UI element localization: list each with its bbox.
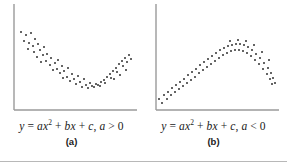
scatter-point [226,52,228,54]
scatter-point [71,73,73,75]
scatter-points-a [0,0,143,119]
eq-a-comma: , [93,120,96,132]
scatter-point [113,78,115,80]
scatter-point [243,44,245,46]
scatter-point [54,62,56,64]
panel-label-b: (b) [142,135,285,148]
scatter-point [234,49,236,51]
scatter-point [269,78,271,80]
eq-a-relation: > [108,120,115,132]
eq-a-equals: = [28,120,35,132]
scatter-point [270,72,272,74]
scatter-point [40,61,42,63]
scatter-point [163,94,165,96]
scatter-point [45,60,47,62]
scatter-point [202,69,204,71]
scatter-point [75,83,77,85]
scatter-point [229,40,231,42]
scatter-point [203,61,205,63]
panel-label-a: (a) [0,135,143,148]
scatter-point [37,43,39,45]
scatter-point [170,94,172,96]
scatter-point [161,102,163,104]
scatter-point [118,63,120,65]
scatter-point [268,59,270,61]
scatter-point [272,77,274,79]
scatter-point [116,71,118,73]
scatter-point [245,40,247,42]
scatter-point [158,98,160,100]
scatter-point [112,70,114,72]
scatter-point [251,49,253,51]
scatter-point [246,52,248,54]
scatter-point [259,57,261,59]
scatter-point [59,72,61,74]
scatter-point [103,79,105,81]
scatter-point [194,76,196,78]
scatter-point [187,74,189,76]
scatter-point [83,78,85,80]
scatter-point [171,87,173,89]
caption-b: y = ax2 + bx + c, a < 0 (b) [142,119,285,148]
scatter-point [33,51,35,53]
eq-a-x2: x [70,120,75,132]
caption-a: y = ax2 + bx + c, a > 0 (a) [0,119,143,148]
scatter-point [222,54,224,56]
scatter-point [100,81,102,83]
scatter-point [39,49,41,51]
eq-b-relation: < [250,120,257,132]
scatter-point [271,83,273,85]
bottom-divider [0,161,287,162]
scatter-point [122,65,124,67]
scatter-point [77,75,79,77]
scatter-point [253,44,255,46]
scatter-point [195,68,197,70]
scatter-point [49,64,51,66]
scatter-point [66,76,68,78]
scatter-point [263,62,265,64]
scatter-point [267,67,269,69]
scatter-point [50,57,52,59]
scatter-point [91,85,93,87]
scatter-point [128,54,130,56]
scatter-point [30,32,32,34]
scatter-point [207,58,209,60]
scatter-point [121,60,123,62]
scatter-point [93,86,95,88]
scatter-point [190,79,192,81]
scatter-point [231,44,233,46]
scatter-point [198,72,200,74]
scatter-point [46,53,48,55]
eq-b-exponent: 2 [190,118,194,127]
scatter-point [110,77,112,79]
scatter-point [52,69,54,71]
plot-area-b [142,0,285,119]
scatter-point [25,34,27,36]
scatter-point [250,55,252,57]
scatter-point [261,51,263,53]
scatter-point [23,40,25,42]
scatter-point [125,69,127,71]
scatter-point [230,50,232,52]
scatter-point [182,85,184,87]
scatter-point [211,55,213,57]
scatter-point [206,66,208,68]
scatter-point [210,63,212,65]
eq-a-zero: 0 [118,120,124,132]
eq-b-y: y [161,120,166,132]
scatter-point [69,80,71,82]
scatter-point [266,73,268,75]
scatter-points-b [142,0,285,119]
eq-b-comma: , [235,120,238,132]
scatter-point [124,57,126,59]
scatter-point [63,70,65,72]
scatter-point [97,84,99,86]
scatter-point [166,98,168,100]
scatter-point [237,39,239,41]
scatter-point [119,74,121,76]
eq-a-plus-1: + [55,120,62,132]
eq-a-plus-2: + [79,120,86,132]
scatter-point [34,38,36,40]
scatter-point [258,63,260,65]
scatter-point [27,48,29,50]
